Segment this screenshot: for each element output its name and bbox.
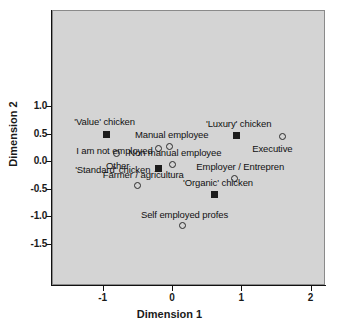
x-tick-mark xyxy=(311,286,312,291)
data-point-circle-marker xyxy=(169,161,176,168)
data-point-label: Non manual employee xyxy=(128,148,221,158)
data-point-circle-marker xyxy=(279,133,286,140)
y-tick-label: -0.5 xyxy=(31,183,47,194)
x-axis-line xyxy=(51,285,326,286)
data-point-square-marker xyxy=(103,131,110,138)
x-tick-label: 1 xyxy=(221,292,261,303)
x-tick-label: -1 xyxy=(83,292,123,303)
y-tick-label: -1.0 xyxy=(31,210,47,221)
x-tick-mark xyxy=(103,286,104,291)
x-tick-label: 0 xyxy=(152,292,192,303)
y-tick-label: 0.0 xyxy=(34,155,47,166)
x-tick-label: 2 xyxy=(291,292,331,303)
x-tick-mark xyxy=(241,286,242,291)
correspondence-analysis-scatter-plot: 1.00.50.0-0.5-1.0-1.5 -1012 'Value' chic… xyxy=(0,0,339,329)
y-axis-title: Dimension 2 xyxy=(7,74,19,194)
y-tick-label: 0.5 xyxy=(34,128,47,139)
data-point-label: Self employed profes xyxy=(141,210,228,220)
data-point-label: 'Organic' chicken xyxy=(183,178,253,188)
y-axis-line xyxy=(51,10,52,286)
data-point-label: 'Luxury' chicken xyxy=(206,119,271,129)
data-point-square-marker xyxy=(211,191,218,198)
data-point-label: Farmer / agricultura xyxy=(103,170,184,180)
y-tick-label: 1.0 xyxy=(34,100,47,111)
x-axis-title: Dimension 1 xyxy=(0,308,339,320)
y-tick-label: -1.5 xyxy=(31,238,47,249)
data-point-square-marker xyxy=(233,132,240,139)
data-point-label: 'Value' chicken xyxy=(74,117,135,127)
data-point-label: Manual employee xyxy=(135,130,209,140)
x-tick-mark xyxy=(172,286,173,291)
data-point-label: Executive xyxy=(252,144,292,154)
data-point-label: Employer / Entrepren xyxy=(196,162,284,172)
